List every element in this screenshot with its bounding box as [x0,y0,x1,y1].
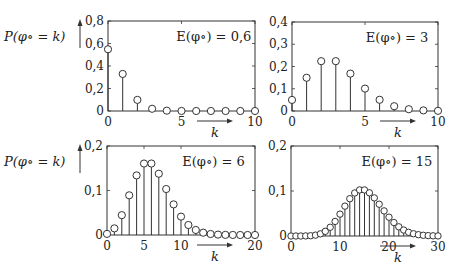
stem-marker [126,192,133,199]
stem-marker [237,107,244,114]
x-axis-label: k [211,249,219,264]
y-tick-label: 0 [96,104,104,118]
stem-marker [192,226,199,233]
x-axis-label: k [211,125,219,140]
y-tick-label: 0,1 [84,184,103,198]
stem-marker [148,160,155,167]
k-arrow-head-icon [410,244,416,249]
stem-marker [244,231,251,238]
x-tick-label: 20 [247,239,262,253]
poisson-figure: 00,20,40,60,80510E(φ∘) = 0,6kP(φ∘ = k)00… [0,0,457,276]
stem-marker [104,46,111,53]
expectation-annotation: E(φ∘) = 6 [182,154,245,169]
stem-marker [347,195,353,201]
stem-marker [391,103,398,110]
x-tick-label: 10 [332,240,347,254]
stem-marker [318,58,325,65]
y-tick-label: 0,2 [85,82,104,96]
x-tick-label: 5 [140,239,148,253]
expectation-annotation: E(φ∘) = 3 [366,30,429,45]
chart-canvas: 00,20,40,60,80510E(φ∘) = 0,6kP(φ∘ = k)00… [0,0,457,276]
y-tick-label: 0 [279,229,287,243]
x-tick-label: 5 [361,115,369,129]
y-tick-label: 0,2 [269,60,288,74]
stem-marker [185,221,192,228]
stem-marker [177,213,184,220]
k-arrow-head-icon [227,243,233,248]
stem-marker [118,212,125,219]
x-axis-label: k [394,125,402,140]
stem-marker [149,105,156,112]
stem-marker [435,233,441,239]
stem-marker [251,231,258,238]
stem-marker [178,107,185,114]
stem-marker [361,85,368,92]
x-tick-label: 10 [430,115,445,129]
stem-marker [332,218,338,224]
y-arrow-head-icon [78,144,83,151]
stem-marker [405,106,412,113]
stem-marker [229,231,236,238]
y-tick-label: 0,2 [268,139,287,153]
y-axis-label: P(φ∘ = k) [3,29,65,44]
stem-marker [111,225,118,232]
stem-marker [376,201,382,207]
stem-marker [222,107,229,114]
y-tick-label: 0,1 [268,184,287,198]
k-arrow-head-icon [410,119,416,124]
stem-marker [371,195,377,201]
chart-panel-3: 00,10,2051020E(φ∘) = 6kP(φ∘ = k) [3,139,263,264]
stem-marker [134,96,141,103]
stem-marker [222,231,229,238]
y-tick-label: 0,4 [85,59,104,73]
stem-marker [303,74,310,81]
y-tick-label: 0,6 [85,37,104,51]
stem-marker [288,96,295,103]
y-tick-label: 0,4 [269,15,288,29]
x-tick-label: 0 [288,115,296,129]
stem-marker [163,107,170,114]
expectation-annotation: E(φ∘) = 15 [361,154,432,169]
x-tick-label: 10 [247,115,262,129]
stem-marker [381,208,387,214]
stem-marker [103,230,110,237]
y-tick-label: 0 [280,104,288,118]
stem-marker [119,70,126,77]
x-tick-label: 30 [430,240,445,254]
stem-marker [200,229,207,236]
y-tick-label: 0,2 [84,139,103,153]
chart-panel-2: 00,10,20,30,40510E(φ∘) = 3k [269,15,446,140]
stem-marker [237,231,244,238]
x-tick-label: 0 [103,239,111,253]
stem-marker [434,107,441,114]
stem-marker [420,107,427,114]
y-arrow-head-icon [78,19,83,26]
stem-marker [386,214,392,220]
y-tick-label: 0 [95,228,103,242]
stem-marker [337,211,343,217]
stem-marker [207,230,214,237]
x-tick-label: 0 [287,240,295,254]
stem-marker [327,224,333,230]
stem-marker [347,70,354,77]
x-tick-label: 5 [178,115,186,129]
x-tick-label: 0 [104,115,112,129]
x-axis-label: k [394,250,402,265]
stem-marker [170,201,177,208]
stem-marker [366,190,372,196]
y-tick-label: 0,1 [269,82,288,96]
y-axis-label: P(φ∘ = k) [3,154,65,169]
stem-marker [332,58,339,65]
stem-marker [163,185,170,192]
stem-marker [251,107,258,114]
stem-marker [376,96,383,103]
x-tick-label: 10 [173,239,188,253]
stem-marker [207,107,214,114]
stem-marker [214,231,221,238]
y-tick-label: 0,8 [85,14,104,28]
stem-marker [133,172,140,179]
stem-marker [140,160,147,167]
chart-panel-4: 00,10,20102030E(φ∘) = 15k [268,139,446,265]
expectation-annotation: E(φ∘) = 0,6 [176,29,251,44]
y-tick-label: 0,3 [269,37,288,51]
